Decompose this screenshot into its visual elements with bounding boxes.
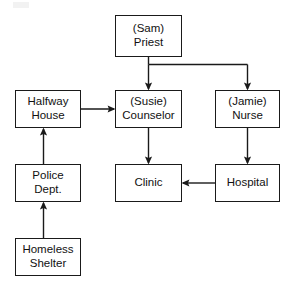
- node-label-line1: Clinic: [134, 176, 162, 190]
- node-susie-counselor[interactable]: (Susie) Counselor: [115, 90, 182, 128]
- node-label-line1: Halfway: [28, 95, 69, 109]
- node-label-line1: (Susie): [130, 95, 166, 109]
- node-sam-priest[interactable]: (Sam) Priest: [115, 15, 182, 57]
- node-hospital[interactable]: Hospital: [215, 164, 280, 202]
- node-label-line2: Shelter: [30, 257, 66, 271]
- node-label-line2: Dept.: [34, 183, 62, 197]
- node-label-line2: Priest: [134, 36, 163, 50]
- node-label-line1: (Sam): [133, 22, 164, 36]
- node-homeless-shelter[interactable]: Homeless Shelter: [15, 238, 81, 276]
- node-label-line2: Counselor: [122, 109, 174, 123]
- node-jamie-nurse[interactable]: (Jamie) Nurse: [215, 90, 280, 128]
- node-label-line2: Nurse: [232, 109, 263, 123]
- node-label-line1: Homeless: [22, 243, 73, 257]
- node-label-line2: House: [31, 109, 64, 123]
- scan-artifact: [13, 2, 29, 8]
- node-label-line1: (Jamie): [228, 95, 266, 109]
- node-halfway-house[interactable]: Halfway House: [15, 90, 81, 128]
- diagram-canvas: (Sam) Priest Halfway House (Susie) Couns…: [0, 0, 295, 289]
- node-label-line1: Police: [32, 169, 63, 183]
- node-police-dept[interactable]: Police Dept.: [15, 164, 81, 202]
- node-clinic[interactable]: Clinic: [115, 164, 182, 202]
- node-label-line1: Hospital: [227, 176, 269, 190]
